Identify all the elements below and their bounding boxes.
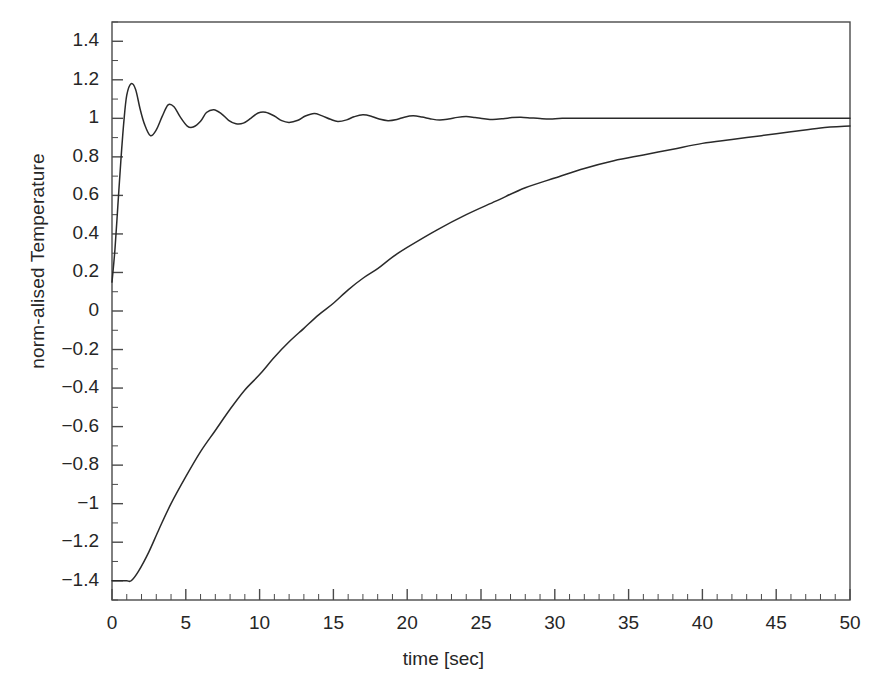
y-tick-label: 0.6: [4, 183, 99, 205]
x-tick-label: 25: [441, 612, 521, 634]
x-tick-label: 10: [220, 612, 300, 634]
y-tick-label: −1.2: [4, 530, 99, 552]
chart-background: [0, 0, 887, 686]
chart-figure: norm-alised Temperature time [sec] 05101…: [0, 0, 887, 686]
y-tick-label: 0.2: [4, 260, 99, 282]
x-tick-label: 30: [515, 612, 595, 634]
y-tick-label: −1: [4, 492, 99, 514]
x-axis-label: time [sec]: [0, 648, 887, 670]
y-tick-label: −1.4: [4, 569, 99, 591]
y-tick-label: −0.4: [4, 376, 99, 398]
y-tick-label: 1.4: [4, 29, 99, 51]
y-tick-label: 1: [4, 106, 99, 128]
y-tick-label: 1.2: [4, 68, 99, 90]
x-tick-label: 0: [72, 612, 152, 634]
x-tick-label: 45: [736, 612, 816, 634]
y-tick-label: −0.2: [4, 338, 99, 360]
y-tick-label: 0.4: [4, 222, 99, 244]
x-tick-label: 20: [367, 612, 447, 634]
x-tick-label: 35: [589, 612, 669, 634]
y-tick-label: 0: [4, 299, 99, 321]
y-tick-label: −0.8: [4, 453, 99, 475]
chart-canvas: [0, 0, 887, 686]
y-tick-label: −0.6: [4, 415, 99, 437]
x-tick-label: 15: [293, 612, 373, 634]
x-tick-label: 5: [146, 612, 226, 634]
x-tick-label: 50: [810, 612, 887, 634]
x-tick-label: 40: [662, 612, 742, 634]
y-tick-label: 0.8: [4, 145, 99, 167]
